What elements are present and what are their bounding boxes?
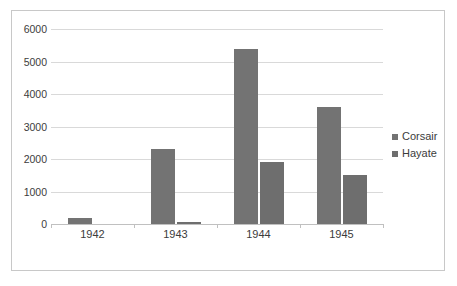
legend-item-label: Hayate xyxy=(402,148,437,159)
legend-item-label: Corsair xyxy=(402,131,437,142)
plot-area xyxy=(51,29,383,224)
x-axis-tick-label: 1943 xyxy=(134,228,217,240)
bar xyxy=(68,218,92,224)
bar xyxy=(260,162,284,224)
bar xyxy=(317,107,341,224)
y-axis-tick-label: 1000 xyxy=(24,187,47,197)
legend-item: Corsair xyxy=(392,128,454,145)
bar-group xyxy=(300,29,383,224)
x-axis-tick-label: 1945 xyxy=(300,228,383,240)
x-axis-tick-label: 1944 xyxy=(217,228,300,240)
bar xyxy=(177,222,201,224)
bar-group xyxy=(134,29,217,224)
bar xyxy=(234,49,258,225)
y-axis-tick-label: 2000 xyxy=(24,154,47,164)
y-axis-tick-label: 3000 xyxy=(24,122,47,132)
bar xyxy=(343,175,367,224)
bar-group xyxy=(217,29,300,224)
legend-square-marker-icon xyxy=(392,151,398,157)
legend-item: Hayate xyxy=(392,145,454,162)
bar-group xyxy=(51,29,134,224)
x-axis-tick-labels: 1942194319441945 xyxy=(51,228,383,246)
legend-square-marker-icon xyxy=(392,134,398,140)
bar-chart: 6000500040003000200010000 19421943194419… xyxy=(0,0,457,286)
y-axis-tick-label: 0 xyxy=(41,219,47,229)
chart-legend: CorsairHayate xyxy=(392,128,454,162)
bars-layer xyxy=(51,29,383,224)
bar xyxy=(151,149,175,224)
x-axis-tick-mark xyxy=(383,224,384,228)
y-axis-tick-label: 6000 xyxy=(24,24,47,34)
x-axis-tick-label: 1942 xyxy=(51,228,134,240)
y-axis-tick-labels: 6000500040003000200010000 xyxy=(10,29,47,224)
y-axis-tick-label: 4000 xyxy=(24,89,47,99)
y-axis-tick-label: 5000 xyxy=(24,57,47,67)
